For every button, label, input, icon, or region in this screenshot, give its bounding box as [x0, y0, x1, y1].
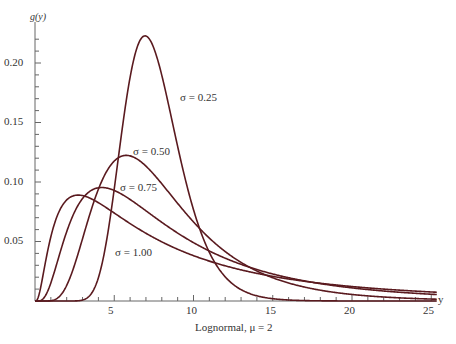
annotation-sigma-0.75: σ = 0.75 — [120, 181, 157, 193]
annotation-sigma-0.25: σ = 0.25 — [180, 91, 217, 103]
x-axis-end-label: y — [438, 293, 444, 305]
curve-0.50 — [35, 155, 437, 301]
x-tick-label-20: 20 — [344, 304, 355, 316]
x-axis-label: Lognormal, μ = 2 — [195, 321, 272, 333]
curve-0.25 — [35, 36, 437, 301]
y-tick-label-0.20: 0.20 — [4, 56, 23, 68]
curves — [35, 36, 437, 301]
y-axis — [35, 22, 41, 301]
y-tick-label-0.10: 0.10 — [4, 175, 23, 187]
x-tick-label-15: 15 — [265, 304, 276, 316]
x-tick-label-25: 25 — [423, 304, 434, 316]
annotation-sigma-0.50: σ = 0.50 — [133, 145, 170, 157]
y-axis-label: g(y) — [30, 11, 46, 22]
y-tick-label-0.05: 0.05 — [4, 234, 23, 246]
annotation-sigma-1.00: σ = 1.00 — [115, 246, 152, 258]
y-tick-label-0.15: 0.15 — [4, 115, 23, 127]
x-tick-label-10: 10 — [186, 304, 197, 316]
chart-canvas — [0, 0, 456, 344]
curve-0.75 — [35, 188, 437, 301]
x-tick-label-5: 5 — [108, 304, 114, 316]
